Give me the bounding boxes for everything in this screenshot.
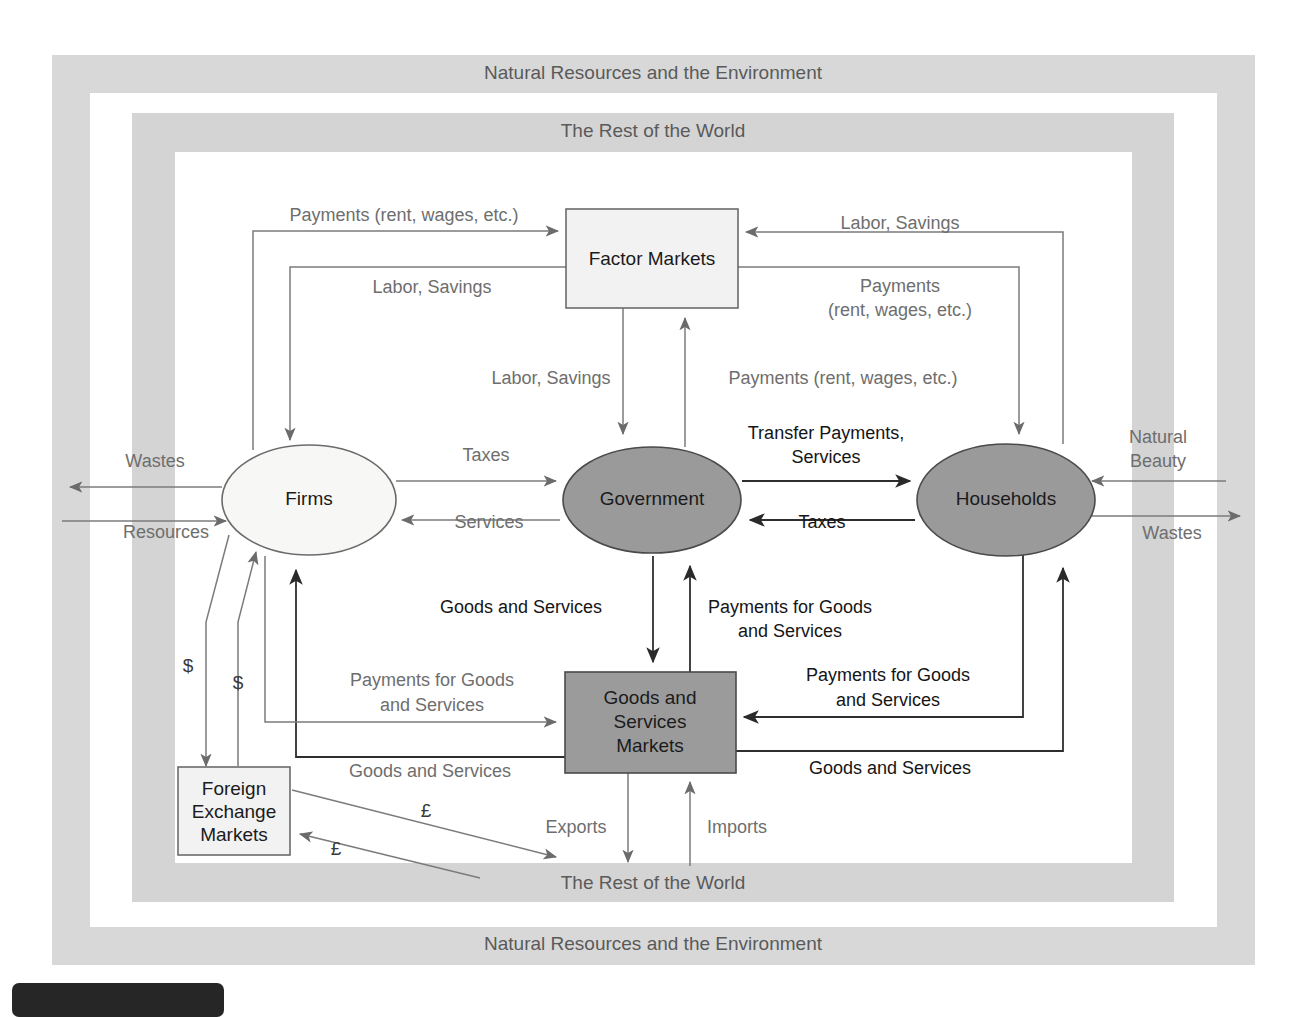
label-wastes-left: Wastes xyxy=(125,451,184,471)
label-labor-savings-mid-left: Labor, Savings xyxy=(491,368,610,388)
label-dollar-outer: $ xyxy=(183,655,194,676)
label-labor-savings-top-right: Labor, Savings xyxy=(840,213,959,233)
node-firms-label: Firms xyxy=(285,488,332,509)
node-gsm-label-line2: Services xyxy=(614,711,687,732)
label-taxes-households-government: Taxes xyxy=(798,512,845,532)
node-foreign-exchange-markets[interactable]: Foreign Exchange Markets xyxy=(178,767,290,855)
node-gsm-label-line3: Markets xyxy=(616,735,684,756)
node-gsm-label-line1: Goods and xyxy=(604,687,697,708)
label-dollar-inner: $ xyxy=(233,672,244,693)
inner-band-label-top: The Rest of the World xyxy=(561,120,745,141)
label-goods-and-services-households: Goods and Services xyxy=(809,758,971,778)
label-transfer-payments-line1: Transfer Payments, xyxy=(748,423,904,443)
outer-band-label-top: Natural Resources and the Environment xyxy=(484,62,823,83)
node-factor-markets[interactable]: Factor Markets xyxy=(566,209,738,308)
label-natural-beauty-line2: Beauty xyxy=(1130,451,1186,471)
outer-band-label-bottom: Natural Resources and the Environment xyxy=(484,933,823,954)
node-firms[interactable]: Firms xyxy=(222,445,396,555)
label-services-government-firms: Services xyxy=(454,512,523,532)
node-goods-services-markets[interactable]: Goods and Services Markets xyxy=(565,672,736,773)
node-fx-label-line2: Exchange xyxy=(192,801,277,822)
label-goods-and-services-firms: Goods and Services xyxy=(349,761,511,781)
label-payments-goods-center-line1: Payments for Goods xyxy=(708,597,872,617)
label-payments-rent-wages-top-left: Payments (rent, wages, etc.) xyxy=(289,205,518,225)
label-pound-lower: £ xyxy=(331,838,342,859)
label-payments-goods-left-line2: and Services xyxy=(380,695,484,715)
node-government-label: Government xyxy=(600,488,705,509)
node-households-label: Households xyxy=(956,488,1056,509)
label-imports: Imports xyxy=(707,817,767,837)
label-payments-goods-center-line2: and Services xyxy=(738,621,842,641)
node-fx-label-line3: Markets xyxy=(200,824,268,845)
node-factor-markets-label: Factor Markets xyxy=(589,248,716,269)
label-payments-goods-left-line1: Payments for Goods xyxy=(350,670,514,690)
label-payments-right-line1: Payments xyxy=(860,276,940,296)
label-goods-and-services-government: Goods and Services xyxy=(440,597,602,617)
label-payments-goods-right-line1: Payments for Goods xyxy=(806,665,970,685)
label-payments-goods-right-line2: and Services xyxy=(836,690,940,710)
label-wastes-right: Wastes xyxy=(1142,523,1201,543)
label-resources-left: Resources xyxy=(123,522,209,542)
label-natural-beauty-line1: Natural xyxy=(1129,427,1187,447)
label-exports: Exports xyxy=(545,817,606,837)
node-households[interactable]: Households xyxy=(917,444,1095,556)
node-government[interactable]: Government xyxy=(563,447,741,553)
label-transfer-payments-line2: Services xyxy=(791,447,860,467)
page-footer-tab xyxy=(12,983,224,1017)
label-labor-savings-top-left: Labor, Savings xyxy=(372,277,491,297)
node-fx-label-line1: Foreign xyxy=(202,778,266,799)
inner-band-label-bottom: The Rest of the World xyxy=(561,872,745,893)
label-payments-right-line2: (rent, wages, etc.) xyxy=(828,300,972,320)
label-taxes-firms-government: Taxes xyxy=(462,445,509,465)
label-payments-rent-wages-mid-right: Payments (rent, wages, etc.) xyxy=(728,368,957,388)
label-pound-upper: £ xyxy=(421,800,432,821)
